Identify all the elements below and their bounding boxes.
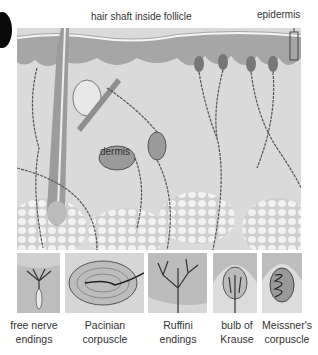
receptor-panels (17, 253, 301, 313)
caption-free-nerve-endings: free nerve endings (9, 318, 59, 346)
meissners-corpuscle-panel (262, 253, 302, 313)
pacinian-corpuscle-panel (65, 253, 144, 313)
figure-marker-dot (0, 12, 12, 48)
epidermis-label: epidermis (257, 10, 300, 20)
hair-shaft-label: hair shaft inside follicle (91, 12, 192, 22)
caption-bulb-of-krause: bulb of Krause (213, 318, 261, 346)
ruffini-endings-panel (148, 253, 207, 313)
caption-ruffini-endings: Ruffini endings (153, 318, 203, 346)
skin-diagram-svg (17, 28, 301, 250)
caption-meissners-corpuscle: Meissner's corpuscle (258, 318, 316, 346)
bulb-of-krause-panel (213, 253, 257, 313)
dermis-label: dermis (100, 147, 130, 157)
free-nerve-endings-panel (17, 253, 60, 313)
caption-pacinian-corpuscle: Pacinian corpuscle (70, 318, 140, 346)
skin-cross-section-illustration (17, 28, 301, 250)
